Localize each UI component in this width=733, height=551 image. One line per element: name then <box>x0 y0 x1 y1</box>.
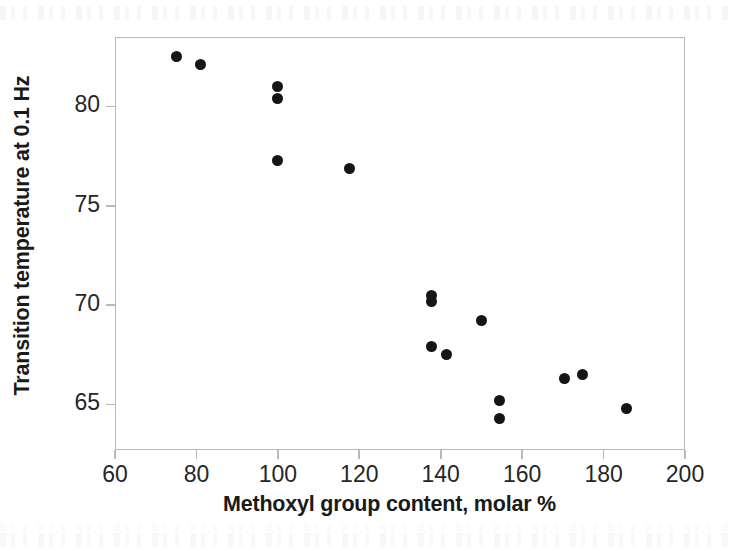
data-point <box>476 315 487 326</box>
y-axis-title: Transition temperature at 0.1 Hz <box>11 75 36 395</box>
x-axis-tick-label: 100 <box>238 461 318 488</box>
scan-artifact-top <box>0 6 733 20</box>
x-axis-tick-label: 140 <box>401 461 481 488</box>
data-point <box>441 349 452 360</box>
x-axis-tick-label: 200 <box>645 461 725 488</box>
data-point <box>559 373 570 384</box>
x-axis-tick-label: 80 <box>156 461 236 488</box>
x-axis-tick-label: 120 <box>319 461 399 488</box>
data-point <box>426 296 437 307</box>
x-axis-tick-label: 180 <box>564 461 644 488</box>
scan-artifact-bottom-faint <box>0 524 733 531</box>
x-axis-tick <box>603 450 605 459</box>
data-point <box>195 59 206 70</box>
y-axis-tick-label: 70 <box>46 290 100 317</box>
scan-artifact-bottom <box>0 533 733 547</box>
y-axis-tick <box>106 404 115 406</box>
y-axis-tick-label: 75 <box>46 191 100 218</box>
x-axis-tick <box>684 450 686 459</box>
data-point <box>494 395 505 406</box>
data-point <box>171 51 182 62</box>
y-axis-tick <box>106 304 115 306</box>
plot-area <box>115 37 685 450</box>
data-point <box>577 369 588 380</box>
y-axis-tick <box>106 205 115 207</box>
x-axis-title: Methoxyl group content, molar % <box>0 492 733 517</box>
data-point <box>272 93 283 104</box>
x-axis-tick-label: 60 <box>75 461 155 488</box>
data-point <box>344 163 355 174</box>
x-axis-tick <box>196 450 198 459</box>
figure-scatter-plot: Transition temperature at 0.1 Hz 6080100… <box>0 0 733 551</box>
data-point <box>272 81 283 92</box>
x-axis-tick-label: 160 <box>482 461 562 488</box>
y-axis-tick <box>106 106 115 108</box>
x-axis-tick <box>521 450 523 459</box>
data-point <box>426 341 437 352</box>
y-axis-tick-label: 80 <box>46 91 100 118</box>
y-axis-tick-label: 65 <box>46 389 100 416</box>
x-axis-tick <box>114 450 116 459</box>
data-point <box>494 413 505 424</box>
x-axis-tick <box>440 450 442 459</box>
data-point <box>272 155 283 166</box>
y-axis-title-wrapper: Transition temperature at 0.1 Hz <box>0 0 46 470</box>
x-axis-tick <box>277 450 279 459</box>
x-axis-tick <box>358 450 360 459</box>
data-point <box>621 403 632 414</box>
